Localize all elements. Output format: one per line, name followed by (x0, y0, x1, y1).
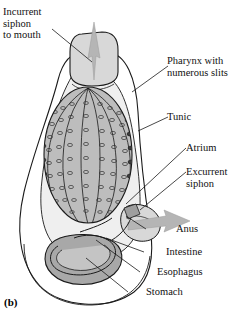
leader-pharynx (132, 66, 168, 92)
label-pharynx: Pharynx with numerous slits (167, 55, 228, 78)
label-tunic: Tunic (167, 111, 191, 123)
label-intestine: Intestine (166, 246, 202, 258)
label-stomach: Stomach (146, 286, 183, 298)
panel-label: (b) (4, 296, 17, 308)
label-incurrent-siphon: Incurrent siphon to mouth (3, 6, 41, 41)
leader-excurrent-siphon (140, 172, 186, 210)
label-excurrent-siphon: Excurrent siphon (186, 166, 227, 189)
label-esophagus: Esophagus (157, 266, 203, 278)
label-atrium: Atrium (186, 142, 216, 154)
anatomy-svg (0, 0, 248, 320)
label-anus: Anus (176, 223, 198, 235)
leader-tunic (138, 117, 168, 131)
tunicate-anatomy-figure: Incurrent siphon to mouth Pharynx with n… (0, 0, 248, 320)
